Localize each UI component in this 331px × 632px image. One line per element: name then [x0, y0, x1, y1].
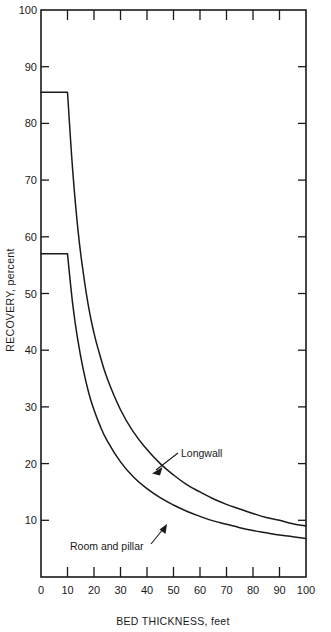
x-tick-label: 70 [220, 584, 232, 596]
annotation-label-longwall: Longwall [181, 447, 222, 459]
y-tick-label: 40 [25, 344, 37, 356]
x-tick-label: 50 [167, 584, 179, 596]
x-tick-label: 80 [247, 584, 259, 596]
chart-figure: 100 90 80 70 60 50 40 30 20 10 0 10 20 3… [0, 0, 331, 632]
x-tick-label: 0 [38, 584, 44, 596]
plot-frame [41, 10, 306, 577]
recovery-vs-bed-thickness-chart: 100 90 80 70 60 50 40 30 20 10 0 10 20 3… [0, 0, 331, 632]
x-axis-title: BED THICKNESS, feet [116, 615, 229, 627]
y-axis-ticks-right [298, 67, 306, 521]
x-tick-label: 90 [273, 584, 285, 596]
y-tick-label: 10 [25, 514, 37, 526]
x-axis-ticks-bottom [68, 567, 280, 577]
y-tick-label: 30 [25, 401, 37, 413]
x-tick-labels: 0 10 20 30 40 50 60 70 80 90 100 [38, 584, 315, 596]
x-axis-ticks-top [68, 10, 280, 20]
y-tick-label: 90 [25, 61, 37, 73]
x-tick-label: 40 [141, 584, 153, 596]
x-tick-label: 20 [88, 584, 100, 596]
annotation-longwall: Longwall [152, 447, 222, 476]
y-tick-label: 100 [19, 4, 37, 16]
y-tick-label: 60 [25, 231, 37, 243]
x-tick-label: 30 [114, 584, 126, 596]
y-tick-label: 20 [25, 458, 37, 470]
y-tick-label: 70 [25, 174, 37, 186]
curve-room-and-pillar [41, 254, 306, 539]
y-tick-labels: 100 90 80 70 60 50 40 30 20 10 [19, 4, 37, 526]
curve-longwall [41, 92, 306, 526]
x-tick-label: 100 [297, 584, 315, 596]
y-tick-label: 80 [25, 117, 37, 129]
x-tick-label: 60 [194, 584, 206, 596]
arrow-head-icon [152, 467, 163, 476]
x-tick-label: 10 [61, 584, 73, 596]
annotation-label-room-and-pillar: Room and pillar [70, 540, 144, 552]
annotation-room-and-pillar: Room and pillar [70, 524, 167, 552]
y-tick-label: 50 [25, 288, 37, 300]
y-axis-ticks [41, 67, 49, 521]
y-axis-title: RECOVERY, percent [4, 248, 16, 351]
